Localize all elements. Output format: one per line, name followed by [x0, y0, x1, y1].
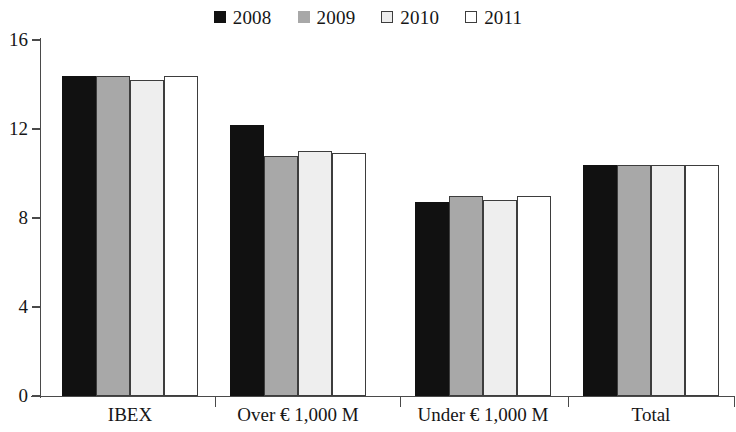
outlined-white-square-icon: [465, 11, 477, 23]
plot-area: [0, 40, 736, 396]
legend-entry-2010: 2010: [381, 8, 439, 27]
bar: [164, 76, 198, 396]
legend-label: 2011: [484, 8, 522, 27]
bar: [332, 153, 366, 396]
bar: [298, 151, 332, 396]
bar: [230, 125, 264, 396]
legend-label: 2009: [317, 8, 356, 27]
legend-entry-2011: 2011: [465, 8, 522, 27]
bar: [483, 200, 517, 396]
legend-label: 2010: [400, 8, 439, 27]
x-axis-line: [31, 396, 735, 397]
bar: [264, 156, 298, 396]
bar: [96, 76, 130, 396]
bar: [651, 165, 685, 396]
bar: [583, 165, 617, 396]
legend-entry-2009: 2009: [298, 8, 356, 27]
category-label-3: Total: [551, 404, 736, 426]
filled-black-square-icon: [214, 11, 226, 23]
chart-legend: 2008200920102011: [0, 4, 736, 30]
legend-label: 2008: [233, 8, 272, 27]
bar: [449, 196, 483, 396]
bar: [685, 165, 719, 396]
outlined-light-square-icon: [381, 11, 393, 23]
bar: [415, 202, 449, 396]
bar: [617, 165, 651, 396]
bar: [62, 76, 96, 396]
filled-gray-square-icon: [298, 11, 310, 23]
bar: [517, 196, 551, 396]
legend-entry-2008: 2008: [214, 8, 272, 27]
bar: [130, 80, 164, 396]
bar-chart: 2008200920102011 1612840 IBEXOver € 1,00…: [0, 0, 736, 432]
category-label-1: Over € 1,000 M: [198, 404, 398, 426]
